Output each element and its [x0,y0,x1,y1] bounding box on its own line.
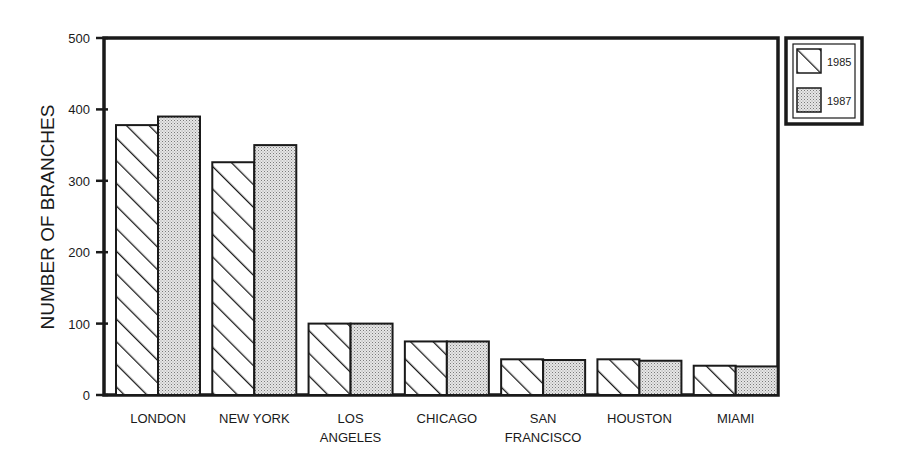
x-tick-label: LONDON [130,411,186,426]
bar-houston-1987 [639,361,681,395]
x-tick-label: FRANCISCO [505,430,582,445]
bar-chart: 0100200300400500 LONDONNEW YORKLOSANGELE… [0,0,903,468]
x-tick-label: ANGELES [320,430,382,445]
x-tick-label: NEW YORK [219,411,290,426]
bar-los-angeles-1985 [309,324,351,395]
bar-miami-1987 [736,366,778,395]
bar-london-1987 [158,117,200,395]
x-tick-label: LOS [338,411,364,426]
y-tick-label: 300 [68,174,90,189]
y-tick-label: 200 [68,245,90,260]
bar-los-angeles-1987 [351,324,393,395]
legend: 1985 1987 [786,38,862,124]
x-tick-label: HOUSTON [607,411,672,426]
legend-swatch-1985 [797,49,821,73]
bar-chicago-1987 [447,341,489,395]
legend-swatch-1987 [797,88,821,112]
bar-new-york-1985 [212,162,254,395]
x-tick-label: CHICAGO [417,411,478,426]
y-axis-title: NUMBER OF BRANCHES [37,105,58,330]
bar-san-francisco-1985 [501,359,543,395]
x-axis-labels: LONDONNEW YORKLOSANGELESCHICAGOSANFRANCI… [130,411,754,445]
bar-chicago-1985 [405,341,447,395]
legend-label-1987: 1987 [827,95,851,107]
x-tick-label: SAN [530,411,557,426]
y-tick-label: 500 [68,31,90,46]
bar-san-francisco-1987 [543,360,585,395]
legend-label-1985: 1985 [827,56,851,68]
x-tick-label: MIAMI [717,411,755,426]
bars [116,117,778,395]
y-tick-label: 0 [83,388,90,403]
bar-new-york-1987 [254,145,296,395]
y-tick-label: 100 [68,317,90,332]
bar-miami-1985 [694,366,736,395]
bar-london-1985 [116,125,158,395]
y-axis: 0100200300400500 [68,31,108,403]
bar-houston-1985 [597,359,639,395]
y-tick-label: 400 [68,102,90,117]
